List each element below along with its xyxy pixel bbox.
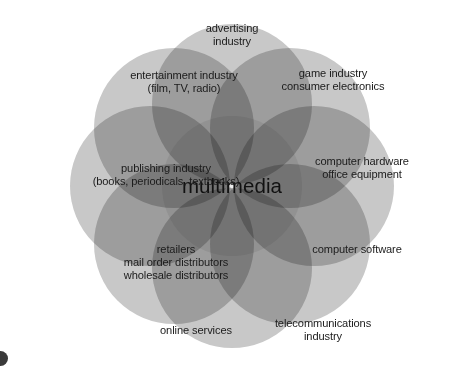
label-game-consumer-electronics: game industry consumer electronics [282,67,385,93]
label-telecommunications: telecommunications industry [275,317,371,343]
label-advertising: advertising industry [206,22,259,48]
label-online-services: online services [160,324,232,337]
label-computer-software: computer software [312,243,402,256]
label-entertainment: entertainment industry (film, TV, radio) [130,69,238,95]
label-publishing: publishing industry (books, periodicals,… [93,162,240,188]
label-computer-hardware: computer hardware office equipment [315,155,409,181]
label-retailers-distributors: retailers mail order distributors wholes… [124,243,228,281]
diagram-canvas: multimedia advertising industry game ind… [0,0,467,373]
